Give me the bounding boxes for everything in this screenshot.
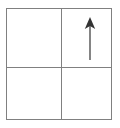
horizontal-divider: [7, 67, 111, 68]
arrow-up-icon: [78, 14, 102, 66]
quadrant-top-left: [7, 9, 61, 67]
figure-root: [0, 0, 120, 128]
quadrant-bottom-left: [7, 68, 61, 119]
quadrant-bottom-right: [62, 68, 111, 119]
vertical-divider: [61, 9, 62, 119]
